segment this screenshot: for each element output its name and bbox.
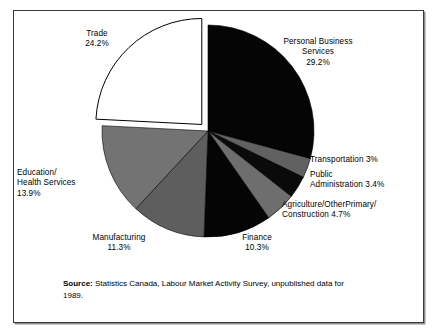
pie-label-finance: Finance 10.3% bbox=[214, 233, 300, 254]
pie-label-manufacturing: Manufacturing 11.3% bbox=[64, 233, 174, 254]
pie-label-agriculture-other-primary-construction: Agriculture/OtherPrimary/ Construction 4… bbox=[282, 200, 438, 221]
source-label: Source: bbox=[63, 279, 93, 288]
pie-label-public-administration: Public Administration 3.4% bbox=[310, 170, 434, 191]
source-text: Statistics Canada, Labour Market Activit… bbox=[63, 279, 344, 300]
pie-label-trade: Trade 24.2% bbox=[54, 29, 140, 50]
pie-label-education-health-services: Education/ Health Services 13.9% bbox=[17, 168, 121, 199]
pie-label-transportation: Transportation 3% bbox=[310, 155, 434, 165]
pie-label-personal-business-services: Personal Business Services 29.2% bbox=[262, 37, 374, 68]
source-note: Source: Statistics Canada, Labour Market… bbox=[63, 278, 363, 301]
pie-chart: Trade 24.2% Personal Business Services 2… bbox=[0, 0, 439, 336]
